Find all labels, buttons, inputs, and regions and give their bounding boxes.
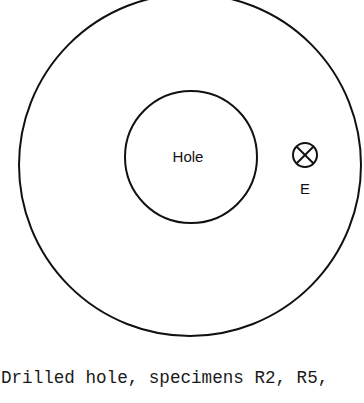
crossed-circle-icon xyxy=(293,143,317,167)
outer-circle xyxy=(19,0,361,336)
hole-label: Hole xyxy=(173,148,204,165)
specimen-diagram: Hole E xyxy=(0,0,364,403)
figure-caption: Drilled hole, specimens R2, R5, xyxy=(1,368,364,388)
sensor-label: E xyxy=(300,180,310,197)
